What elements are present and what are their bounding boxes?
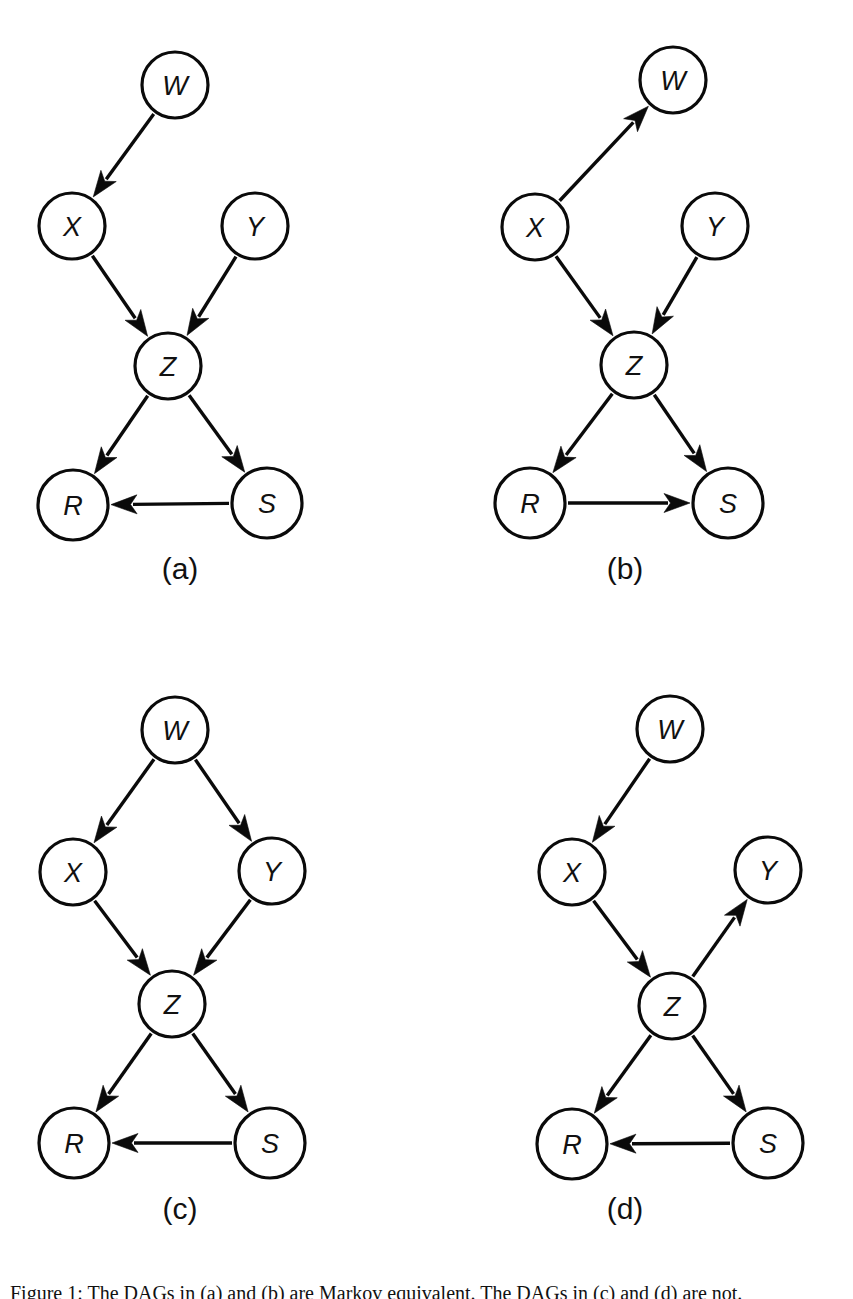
node-Y[interactable]: Y bbox=[222, 193, 288, 259]
node-R[interactable]: R bbox=[537, 1109, 607, 1179]
panel-b: WXYZRS bbox=[420, 0, 853, 600]
panel-c-graph: WXYZRS bbox=[0, 640, 420, 1240]
edge-Z-to-R bbox=[594, 1035, 651, 1113]
arrowhead bbox=[684, 445, 706, 472]
arrowhead bbox=[229, 815, 252, 842]
edge-W-to-X bbox=[592, 759, 649, 843]
arrowhead bbox=[222, 446, 245, 473]
arrowhead bbox=[594, 1087, 617, 1114]
node-Y[interactable]: Y bbox=[735, 837, 801, 903]
node-Z[interactable]: Z bbox=[601, 332, 667, 398]
node-W-label: W bbox=[162, 716, 190, 746]
node-W[interactable]: W bbox=[640, 47, 706, 113]
node-W[interactable]: W bbox=[142, 697, 208, 763]
node-S-label: S bbox=[258, 489, 276, 519]
edge-Y-to-Z bbox=[194, 900, 251, 975]
panel-a: WXYZRS bbox=[0, 0, 420, 600]
edge-X-to-W bbox=[560, 106, 649, 201]
node-layer: WXYZRS bbox=[38, 52, 302, 540]
panel-b-graph: WXYZRS bbox=[420, 0, 853, 600]
panel-c: WXYZRS bbox=[0, 640, 420, 1240]
edge-W-to-Y bbox=[195, 760, 251, 842]
edge-Z-to-S bbox=[189, 395, 245, 472]
arrowhead bbox=[225, 1085, 248, 1112]
node-S-label: S bbox=[719, 489, 737, 519]
node-S[interactable]: S bbox=[232, 468, 302, 538]
node-Y[interactable]: Y bbox=[682, 193, 748, 259]
edge-Z-to-R bbox=[96, 1033, 151, 1112]
node-X[interactable]: X bbox=[40, 839, 106, 905]
arrowhead bbox=[553, 446, 576, 472]
node-X[interactable]: X bbox=[39, 193, 105, 259]
node-layer: WXYZRS bbox=[495, 47, 763, 538]
arrowhead bbox=[94, 447, 117, 474]
arrowhead bbox=[723, 1085, 746, 1112]
node-S[interactable]: S bbox=[733, 1108, 803, 1178]
node-Y-label: Y bbox=[246, 212, 266, 242]
arrowhead bbox=[724, 899, 747, 926]
arrowhead bbox=[127, 949, 150, 976]
node-Y[interactable]: Y bbox=[239, 838, 305, 904]
edge-layer bbox=[92, 114, 244, 514]
node-W-label: W bbox=[162, 71, 190, 101]
edge-S-to-R bbox=[112, 1134, 232, 1153]
node-S[interactable]: S bbox=[235, 1108, 305, 1178]
node-X[interactable]: X bbox=[502, 194, 568, 260]
node-layer: WXYZRS bbox=[39, 697, 305, 1178]
node-X-label: X bbox=[562, 858, 582, 888]
edge-X-to-Z bbox=[92, 256, 147, 337]
arrowhead bbox=[96, 1085, 119, 1112]
edge-Y-to-Z bbox=[652, 257, 697, 334]
node-R-label: R bbox=[64, 1129, 84, 1159]
node-R[interactable]: R bbox=[38, 470, 108, 540]
node-Y-label: Y bbox=[706, 212, 726, 242]
node-X-label: X bbox=[525, 213, 545, 243]
arrowhead bbox=[194, 949, 217, 975]
edge-W-to-X bbox=[94, 759, 154, 843]
node-S[interactable]: S bbox=[693, 468, 763, 538]
edge-S-to-R bbox=[610, 1134, 730, 1153]
panel-caption-c: (c) bbox=[100, 1192, 260, 1226]
edge-X-to-Z bbox=[594, 901, 651, 977]
edge-Z-to-S bbox=[193, 1033, 248, 1112]
arrowhead bbox=[592, 815, 615, 842]
node-Z[interactable]: Z bbox=[639, 973, 705, 1039]
edge-Z-to-Y bbox=[693, 899, 747, 976]
arrowhead bbox=[590, 309, 613, 336]
node-Y-label: Y bbox=[759, 856, 779, 886]
edge-layer bbox=[94, 759, 252, 1152]
panel-caption-d: (d) bbox=[545, 1192, 705, 1226]
node-W[interactable]: W bbox=[142, 52, 208, 118]
edge-S-to-R bbox=[111, 495, 229, 514]
edge-W-to-X bbox=[93, 114, 154, 197]
node-R[interactable]: R bbox=[495, 468, 565, 538]
node-X-label: X bbox=[63, 858, 83, 888]
node-Z-label: Z bbox=[663, 992, 682, 1022]
node-Z-label: Z bbox=[159, 352, 178, 382]
arrowhead bbox=[93, 170, 116, 197]
node-X[interactable]: X bbox=[539, 839, 605, 905]
edge-Y-to-Z bbox=[187, 257, 236, 336]
node-Z[interactable]: Z bbox=[139, 971, 205, 1037]
node-W-label: W bbox=[657, 715, 685, 745]
node-R[interactable]: R bbox=[39, 1108, 109, 1178]
arrowhead bbox=[627, 951, 650, 978]
node-layer: WXYZRS bbox=[537, 696, 803, 1179]
edge-layer bbox=[553, 106, 707, 512]
node-Z[interactable]: Z bbox=[135, 333, 201, 399]
panel-d: WXYZRS bbox=[420, 640, 853, 1240]
edge-X-to-Z bbox=[556, 256, 613, 336]
edge-Z-to-S bbox=[654, 395, 706, 472]
arrowhead bbox=[125, 309, 148, 336]
edge-Z-to-R bbox=[94, 396, 147, 474]
edge-layer bbox=[592, 759, 747, 1153]
node-X-label: X bbox=[62, 212, 82, 242]
arrowhead bbox=[94, 816, 117, 843]
panel-a-graph: WXYZRS bbox=[0, 0, 420, 600]
arrowhead bbox=[187, 308, 209, 335]
edge-R-to-S bbox=[568, 494, 690, 513]
dag-figure: WXYZRS WXYZRS WXYZRS WXYZRS (a) (b) (c) … bbox=[0, 0, 853, 1299]
node-S-label: S bbox=[759, 1129, 777, 1159]
edge-Z-to-R bbox=[553, 394, 612, 473]
node-W[interactable]: W bbox=[637, 696, 703, 762]
